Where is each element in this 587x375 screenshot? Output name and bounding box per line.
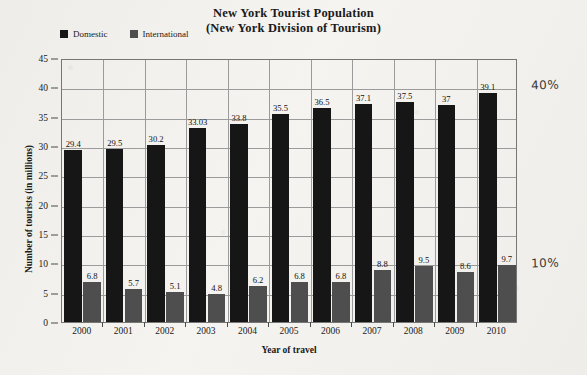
bar-value-label: 5.7 — [128, 278, 139, 288]
y-tick-mark — [51, 88, 58, 89]
legend-entry-international: International — [130, 29, 189, 39]
bar-domestic-2002: 30.2 — [147, 145, 165, 322]
bar-value-label: 6.8 — [294, 271, 305, 281]
y-tick-mark — [51, 176, 58, 177]
vertical-gridline — [311, 60, 312, 322]
handwritten-annotation: 10% — [531, 256, 560, 271]
x-tick-label: 2004 — [238, 326, 257, 336]
y-tick-mark — [51, 117, 58, 118]
x-tick-mark — [185, 322, 186, 327]
x-tick-label: 2008 — [404, 326, 423, 336]
bar-international-2007: 8.8 — [374, 270, 392, 322]
vertical-gridline — [186, 60, 187, 322]
bar-international-2010: 9.7 — [498, 265, 516, 322]
x-tick-label: 2005 — [280, 326, 299, 336]
bar-value-label: 30.2 — [149, 134, 164, 144]
y-tick-mark — [51, 323, 58, 324]
x-tick-mark — [393, 322, 394, 327]
x-tick-label: 2006 — [321, 326, 340, 336]
y-tick-label: 40 — [39, 83, 49, 93]
bar-domestic-2005: 35.5 — [272, 114, 290, 322]
x-tick-mark — [351, 322, 352, 327]
bar-international-2002: 5.1 — [166, 292, 184, 322]
y-tick-mark — [51, 147, 58, 148]
bar-domestic-2001: 29.5 — [106, 149, 124, 322]
bar-domestic-2008: 37.5 — [396, 102, 414, 322]
y-tick-label: 0 — [43, 318, 48, 328]
chart-legend: DomesticInternational — [60, 29, 188, 39]
legend-label: Domestic — [73, 29, 108, 39]
x-tick-label: 2002 — [155, 326, 174, 336]
bar-value-label: 39.1 — [480, 82, 495, 92]
bar-domestic-2010: 39.1 — [479, 93, 497, 322]
bar-value-label: 33.8 — [232, 113, 247, 123]
bar-value-label: 5.1 — [170, 281, 181, 291]
bar-domestic-2006: 36.5 — [313, 108, 331, 322]
bar-value-label: 6.8 — [87, 271, 98, 281]
x-tick-mark — [144, 322, 145, 327]
bar-international-2000: 6.8 — [83, 282, 101, 322]
x-tick-label: 2009 — [445, 326, 464, 336]
y-tick-label: 20 — [39, 201, 49, 211]
y-tick-label: 15 — [39, 230, 49, 240]
vertical-gridline — [435, 60, 436, 322]
x-axis-title: Year of travel — [61, 345, 517, 355]
y-tick-label: 25 — [39, 171, 49, 181]
y-tick-mark — [51, 59, 58, 60]
horizontal-gridline — [62, 89, 516, 90]
y-tick-label: 45 — [39, 54, 49, 64]
legend-swatch-icon — [60, 30, 68, 38]
bar-value-label: 37.5 — [397, 91, 412, 101]
x-tick-mark — [434, 322, 435, 327]
bar-value-label: 37 — [442, 94, 451, 104]
x-tick-mark — [476, 322, 477, 327]
bar-international-2009: 8.6 — [457, 272, 475, 322]
bar-value-label: 37.1 — [356, 93, 371, 103]
bar-international-2008: 9.5 — [415, 266, 433, 322]
bar-international-2005: 6.8 — [291, 282, 309, 322]
bar-value-label: 35.5 — [273, 103, 288, 113]
y-tick-mark — [51, 235, 58, 236]
vertical-gridline — [228, 60, 229, 322]
bar-international-2006: 6.8 — [332, 282, 350, 322]
y-tick-label: 10 — [39, 259, 49, 269]
bar-value-label: 29.4 — [66, 139, 81, 149]
y-tick-label: 30 — [39, 142, 49, 152]
y-tick-mark — [51, 264, 58, 265]
bar-value-label: 4.8 — [211, 283, 222, 293]
y-tick-label: 35 — [39, 113, 49, 123]
x-tick-label: 2003 — [197, 326, 216, 336]
bar-value-label: 9.7 — [501, 254, 512, 264]
x-tick-mark — [227, 322, 228, 327]
bar-value-label: 9.5 — [418, 255, 429, 265]
y-tick-mark — [51, 205, 58, 206]
vertical-gridline — [477, 60, 478, 322]
bar-international-2004: 6.2 — [249, 286, 267, 322]
plot-area: 29.46.829.55.730.25.133.034.833.86.235.5… — [61, 59, 517, 323]
x-tick-mark — [268, 322, 269, 327]
vertical-gridline — [145, 60, 146, 322]
bar-value-label: 6.8 — [336, 271, 347, 281]
handwritten-annotation: 40% — [531, 78, 560, 93]
legend-swatch-icon — [130, 30, 138, 38]
y-axis: Number of tourists (in millions) 0510152… — [0, 59, 58, 323]
bar-domestic-2000: 29.4 — [64, 150, 82, 322]
x-tick-mark — [310, 322, 311, 327]
legend-entry-domestic: Domestic — [60, 29, 108, 39]
x-tick-label: 2007 — [362, 326, 381, 336]
bar-value-label: 8.8 — [377, 259, 388, 269]
x-axis: 2000200120022003200420052006200720082009… — [61, 326, 517, 342]
bar-international-2003: 4.8 — [208, 294, 226, 322]
y-axis-title: Number of tourists (in millions) — [24, 94, 34, 324]
bar-value-label: 6.2 — [253, 275, 264, 285]
bar-domestic-2007: 37.1 — [355, 104, 373, 322]
y-tick-mark — [51, 293, 58, 294]
bar-value-label: 8.6 — [460, 261, 471, 271]
x-tick-mark — [102, 322, 103, 327]
bar-value-label: 36.5 — [314, 97, 329, 107]
y-tick-label: 5 — [43, 289, 48, 299]
vertical-gridline — [352, 60, 353, 322]
bar-value-label: 29.5 — [107, 138, 122, 148]
bar-international-2001: 5.7 — [125, 289, 143, 322]
x-tick-label: 2010 — [487, 326, 506, 336]
